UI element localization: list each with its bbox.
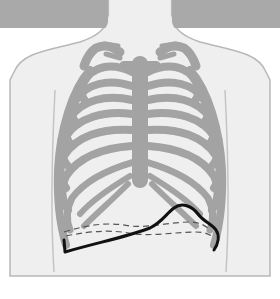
background-band-right [172,0,280,28]
ribcage-illustration [0,0,280,299]
chest-diagram [0,0,280,299]
neck [96,0,184,36]
background-band-left [0,0,108,28]
